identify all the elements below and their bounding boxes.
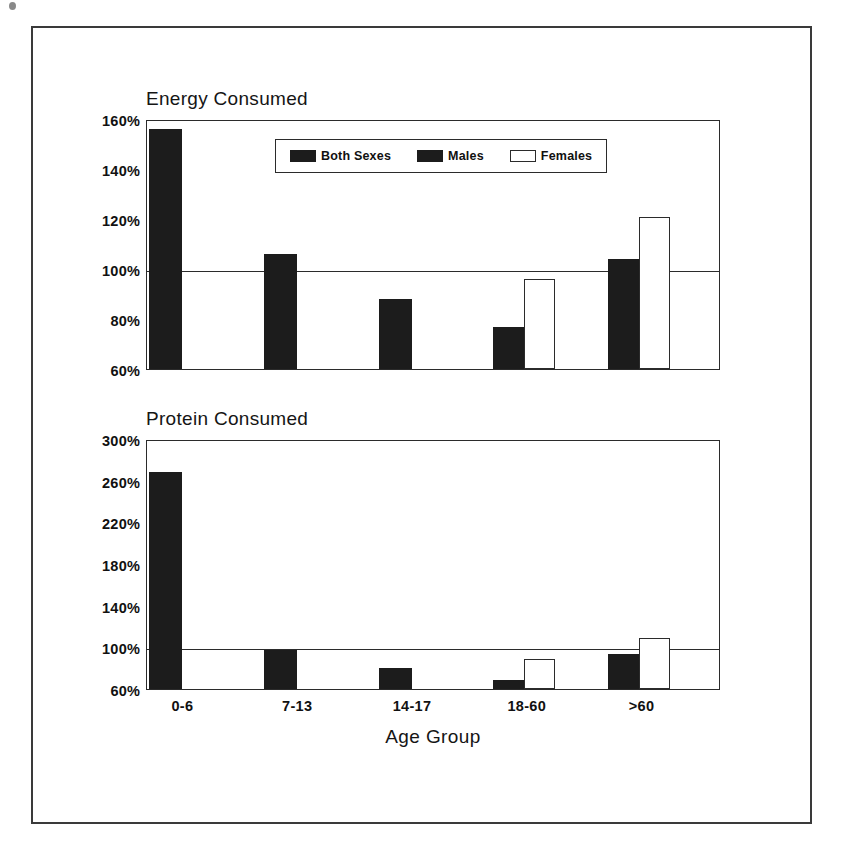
- x-axis-tick-label: 14-17: [393, 698, 432, 714]
- bar-energy-18-60-males: [493, 327, 524, 370]
- legend-item-both-sexes: Both Sexes: [290, 149, 391, 163]
- bar-protein-14-17-both-sexes: [379, 668, 412, 689]
- bar-energy-18-60-females: [524, 279, 555, 369]
- y-axis-tick-label: 140%: [102, 600, 140, 616]
- legend-label: Females: [541, 149, 592, 163]
- y-axis-tick-label: 220%: [102, 516, 140, 532]
- y-axis-tick-label: 100%: [102, 641, 140, 657]
- filled-square-icon: [417, 150, 443, 162]
- bar-protein-7-13-both-sexes: [264, 650, 297, 689]
- y-axis-tick-label: 260%: [102, 475, 140, 491]
- y-axis-tick-label: 120%: [102, 213, 140, 229]
- bar-energy-over60-males: [608, 259, 639, 369]
- bar-protein-0-6-both-sexes: [149, 472, 182, 689]
- bar-energy-7-13-both-sexes: [264, 254, 297, 369]
- chart-legend: Both SexesMalesFemales: [275, 139, 607, 173]
- x-axis-label: Age Group: [146, 726, 720, 748]
- y-axis-tick-label: 300%: [102, 433, 140, 449]
- y-axis-tick-label: 80%: [110, 313, 140, 329]
- chart-energy-consumed: Energy Consumed 60%80%100%120%140%160% B…: [100, 88, 720, 388]
- y-axis-tick-label: 140%: [102, 163, 140, 179]
- y-axis-tick-label: 180%: [102, 558, 140, 574]
- plot-area-energy: 60%80%100%120%140%160% Both SexesMalesFe…: [146, 120, 720, 370]
- y-axis-tick-label: 100%: [102, 263, 140, 279]
- chart-title-protein: Protein Consumed: [146, 408, 308, 430]
- legend-label: Males: [448, 149, 484, 163]
- figure-root: Energy Consumed 60%80%100%120%140%160% B…: [0, 0, 844, 854]
- y-axis-tick-label: 60%: [110, 683, 140, 699]
- y-axis-tick-label: 160%: [102, 113, 140, 129]
- bar-energy-14-17-both-sexes: [379, 299, 412, 369]
- reference-line-100-percent: [147, 649, 719, 650]
- chart-protein-consumed: Protein Consumed 60%100%140%180%220%260%…: [100, 408, 720, 708]
- bar-protein-18-60-females: [524, 659, 555, 689]
- legend-label: Both Sexes: [321, 149, 391, 163]
- legend-item-males: Males: [417, 149, 484, 163]
- open-square-icon: [510, 150, 536, 162]
- bar-protein-over60-males: [608, 654, 639, 689]
- plot-area-protein: 60%100%140%180%220%260%300%0-67-1314-171…: [146, 440, 720, 690]
- bar-energy-0-6-both-sexes: [149, 129, 182, 369]
- filled-square-icon: [290, 150, 316, 162]
- x-axis-tick-label: 18-60: [508, 698, 547, 714]
- bar-energy-over60-females: [639, 217, 670, 370]
- y-axis-tick-label: 60%: [110, 363, 140, 379]
- legend-item-females: Females: [510, 149, 592, 163]
- bar-protein-18-60-males: [493, 680, 524, 689]
- bar-protein-over60-females: [639, 638, 670, 689]
- x-axis-tick-label: 7-13: [282, 698, 312, 714]
- chart-title-energy: Energy Consumed: [146, 88, 308, 110]
- scan-artifact-mark: [9, 2, 16, 10]
- x-axis-tick-label: >60: [629, 698, 655, 714]
- x-axis-tick-label: 0-6: [171, 698, 193, 714]
